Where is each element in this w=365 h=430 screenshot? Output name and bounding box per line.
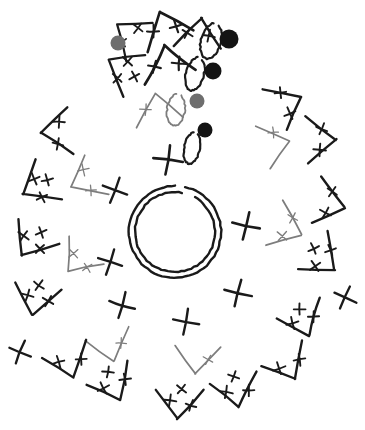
filled-dot [111,36,126,51]
filled-dot [198,123,213,138]
filled-dot [220,30,239,49]
filled-dot [205,63,222,80]
sketch-canvas: Radial arrangement of hand-drawn chevron… [0,0,365,430]
filled-dot [190,94,205,109]
radial-glyph-diagram [0,0,365,430]
